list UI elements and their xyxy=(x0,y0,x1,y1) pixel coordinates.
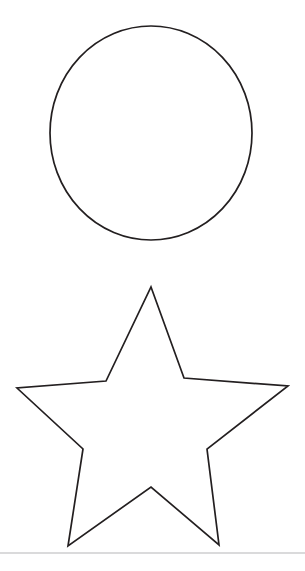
shapes-canvas xyxy=(0,0,305,571)
circle-shape[interactable] xyxy=(50,26,252,240)
shapes-page: Shapes Outline Page Circle Five-pointed … xyxy=(0,0,305,571)
